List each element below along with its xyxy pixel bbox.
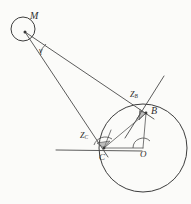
angle-label-z-c-subscript: C: [84, 134, 88, 140]
tangent-line-at-c: [56, 150, 142, 151]
geometry-figure: M γ ZB B ZC C O: [0, 0, 191, 204]
point-label-b: B: [151, 106, 157, 116]
ray-m-to-c: [25, 32, 108, 157]
point-label-m: M: [30, 11, 38, 21]
angle-label-gamma: γ: [39, 47, 43, 55]
radius-o-to-b: [143, 113, 146, 148]
vertex-dot-c: [103, 147, 106, 150]
point-label-o: O: [140, 150, 147, 159]
right-angle-marker-at-o: [133, 138, 150, 148]
angle-label-z-c: ZC: [80, 132, 88, 141]
angle-label-z-b-subscript: B: [134, 93, 137, 99]
point-label-c: C: [99, 153, 105, 162]
vertex-dot-b: [145, 112, 148, 115]
ray-m-to-b: [25, 32, 154, 119]
vertex-dot-m: [24, 31, 27, 34]
angle-label-z-b: ZB: [130, 91, 138, 100]
figure-canvas: [0, 0, 191, 204]
